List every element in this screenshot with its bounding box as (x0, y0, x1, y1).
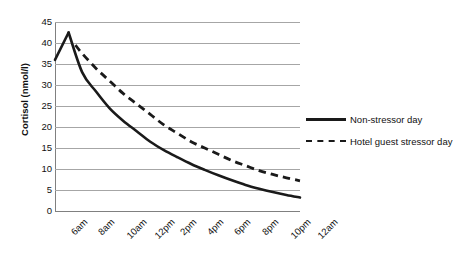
y-axis-tick-label: 25 (30, 101, 52, 111)
x-axis-tick-label: 2pm (178, 217, 198, 237)
y-axis-tick-label: 40 (30, 38, 52, 48)
y-axis-tick-label: 45 (30, 17, 52, 27)
chart-legend: Non-stressor dayHotel guest stressor day (306, 108, 461, 152)
series-line-hotel-guest-stressor (75, 45, 300, 181)
x-axis-tick-label: 4pm (206, 217, 226, 237)
x-axis-tick-label: 10pm (289, 217, 313, 241)
y-axis-tick-label: 10 (30, 164, 52, 174)
x-axis-tick-label: 8am (97, 217, 117, 237)
y-axis-tick-label: 20 (30, 122, 52, 132)
x-axis-tick-label: 6pm (233, 217, 253, 237)
x-axis-tick-label: 12am (316, 217, 340, 241)
y-axis-tick-label: 0 (30, 206, 52, 216)
cortisol-line-chart: Cortisol (nmol/l) 454035302520151050 6am… (0, 0, 461, 262)
x-axis-tick-label: 12pm (153, 217, 177, 241)
legend-item[interactable]: Hotel guest stressor day (306, 130, 461, 152)
y-axis-tick-label: 15 (30, 143, 52, 153)
y-axis-tick-labels: 454035302520151050 (28, 0, 52, 262)
series-line-non-stressor-rise (55, 33, 69, 60)
legend-solid-line-icon (306, 114, 346, 124)
legend-item-label: Non-stressor day (346, 114, 422, 125)
y-axis-tick-label: 30 (30, 80, 52, 90)
y-axis-tick-label: 5 (30, 185, 52, 195)
x-axis-tick-label: 10am (125, 217, 149, 241)
legend-item-label: Hotel guest stressor day (346, 136, 452, 147)
x-axis-tick-label: 8pm (260, 217, 280, 237)
y-axis-tick-label: 35 (30, 59, 52, 69)
legend-item[interactable]: Non-stressor day (306, 108, 461, 130)
plot-area (55, 22, 300, 211)
x-axis-tick-label: 6am (69, 217, 89, 237)
legend-dashed-line-icon (306, 136, 346, 146)
x-axis-tick-labels: 6am8am10am12pm2pm4pm6pm8pm10pm12am (55, 211, 300, 262)
series-curves (55, 22, 300, 211)
